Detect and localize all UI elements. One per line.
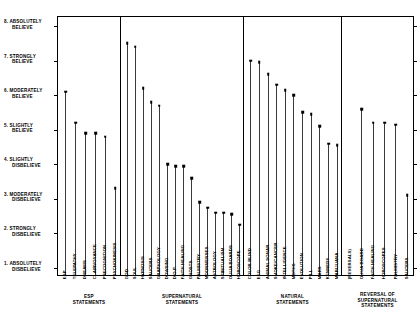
plot-area-natural: COLOR BLINDEEGANIMAL SONARSMOKE/CANCERIN… xyxy=(244,17,341,275)
y-axis-label-1: 1. ABSOLUTELYDISBELIEVE xyxy=(2,261,54,272)
x-axis-label-esp-1: TELEPATHY xyxy=(73,253,77,279)
stem-natural-1 xyxy=(259,62,260,275)
y-axis-tick-4 xyxy=(54,164,58,165)
panel-supernatural-statements: GODSOULHYPNOSISSAUCERSGRAPHOLOGYDOWSINGD… xyxy=(120,16,244,276)
y-axis-tick-3 xyxy=(413,199,417,200)
group-title-line: STATEMENTS xyxy=(120,300,244,306)
x-axis-label-supernatural-9: PALMISTRY xyxy=(197,254,201,279)
stem-supernatural-6 xyxy=(175,166,176,275)
stem-supernatural-2 xyxy=(143,88,144,275)
x-axis-label-reversal-3: HOROSCOPES xyxy=(382,247,386,279)
x-axis-label-natural-9: KENNEDY xyxy=(326,257,330,279)
y-axis-tick-2 xyxy=(54,233,58,234)
data-point-natural-6 xyxy=(301,111,304,114)
group-title-natural: NATURALSTATEMENTS xyxy=(243,294,342,305)
x-axis-label-natural-2: ANIMAL SONAR xyxy=(265,245,269,280)
group-title-line: STATEMENTS xyxy=(341,303,414,309)
x-axis-label-reversal-1: OUIJA BOARD xyxy=(359,248,363,279)
x-axis-label-supernatural-14: HOROSCOPE xyxy=(237,250,241,279)
x-axis-label-esp-2: DREAMS xyxy=(83,260,87,279)
group-title-reversal: REVERSAL OFSUPERNATURALSTATEMENTS xyxy=(341,292,414,309)
data-point-supernatural-9 xyxy=(198,201,201,204)
data-point-natural-9 xyxy=(327,142,330,145)
x-axis-label-natural-6: EVOLUTION xyxy=(300,253,304,279)
y-axis-tick-2 xyxy=(413,233,417,234)
x-axis-label-supernatural-1: SOUL xyxy=(133,267,137,279)
y-axis-label-8: 8. ABSOLUTELYBELIEVE xyxy=(2,19,54,30)
x-axis-label-supernatural-5: DOWSING xyxy=(165,257,169,279)
x-axis-label-natural-4: INTELLIGENCE xyxy=(283,246,287,279)
data-point-natural-4 xyxy=(284,89,287,92)
x-axis-label-supernatural-10: MOONMENSES xyxy=(205,247,209,280)
y-axis-label-3: 3. MODERATELYDISBELIEVE xyxy=(2,192,54,203)
data-point-supernatural-0 xyxy=(126,42,129,45)
x-axis-label-natural-1: EEG xyxy=(257,270,261,279)
x-axis-label-supernatural-0: GOD xyxy=(125,269,129,279)
stem-esp-1 xyxy=(75,123,76,275)
stem-natural-0 xyxy=(250,61,251,275)
x-axis-label-supernatural-4: GRAPHOLOGY xyxy=(157,247,161,279)
y-axis-tick-7 xyxy=(54,61,58,62)
data-point-natural-5 xyxy=(293,94,296,97)
y-axis-label-5: 5. SLIGHTLYBELIEVE xyxy=(2,123,54,134)
x-axis-label-natural-8: MARS xyxy=(317,266,321,279)
y-axis-tick-6 xyxy=(54,95,58,96)
data-point-supernatural-4 xyxy=(158,104,161,107)
data-point-natural-7 xyxy=(310,113,313,116)
x-axis-label-reversal-2: FAITH HEALING xyxy=(371,245,375,280)
data-point-supernatural-6 xyxy=(174,165,177,168)
data-point-supernatural-1 xyxy=(134,45,137,48)
plot-area-reversal: (REVERSALS)OUIJA BOARDFAITH HEALINGHOROS… xyxy=(342,17,413,275)
x-axis-label-supernatural-12: SPIRITUALISM xyxy=(221,248,225,280)
data-point-supernatural-8 xyxy=(190,177,193,180)
stem-supernatural-1 xyxy=(135,47,136,275)
data-point-supernatural-7 xyxy=(182,165,185,168)
y-axis-label-7: 7. STRONGLYBELIEVE xyxy=(2,54,54,65)
panel-esp-statements: ESPTELEPATHYDREAMSCLAIRVOYANCEPRECOGNITI… xyxy=(57,16,121,276)
y-axis-tick-labels: 8. ABSOLUTELYBELIEVE7. STRONGLYBELIEVE6.… xyxy=(2,0,54,319)
data-point-reversal-1 xyxy=(361,108,364,111)
group-title-esp: ESPSTATEMENTS xyxy=(57,294,121,305)
data-point-natural-8 xyxy=(319,125,322,128)
x-axis-label-supernatural-7: FAITH HEALING xyxy=(181,245,185,280)
stem-esp-0 xyxy=(65,92,66,275)
x-axis-label-natural-0: COLOR BLIND xyxy=(248,248,252,279)
data-point-reversal-3 xyxy=(383,121,386,124)
x-axis-label-supernatural-13: OUIJA BOARDS xyxy=(229,245,233,279)
data-point-esp-0 xyxy=(64,90,67,93)
y-axis-tick-8 xyxy=(413,26,417,27)
stem-supernatural-3 xyxy=(151,102,152,275)
y-axis-tick-1 xyxy=(54,268,58,269)
x-axis-label-natural-10: MARIJUANA xyxy=(335,252,339,279)
x-axis-label-natural-3: SMOKE/CANCER xyxy=(274,243,278,280)
y-axis-tick-6 xyxy=(413,95,417,96)
y-axis-label-6: 6. MODERATELYBELIEVE xyxy=(2,89,54,100)
stem-supernatural-0 xyxy=(127,43,128,275)
y-axis-tick-1 xyxy=(413,268,417,269)
data-point-supernatural-14 xyxy=(238,223,241,226)
data-point-esp-2 xyxy=(84,132,87,135)
data-point-supernatural-11 xyxy=(214,211,217,214)
data-point-reversal-5 xyxy=(406,194,409,197)
y-axis-tick-7 xyxy=(413,61,417,62)
data-point-esp-4 xyxy=(104,135,107,138)
data-point-supernatural-2 xyxy=(142,87,145,90)
panel-reversal-statements: (REVERSALS)OUIJA BOARDFAITH HEALINGHOROS… xyxy=(341,16,414,276)
data-point-natural-3 xyxy=(275,83,278,86)
data-point-natural-1 xyxy=(258,61,261,64)
data-point-natural-10 xyxy=(336,144,339,147)
y-axis-label-4: 4. SLIGHTLYDISBELIEVE xyxy=(2,158,54,169)
data-point-natural-2 xyxy=(267,73,270,76)
group-title-line: STATEMENTS xyxy=(57,300,121,306)
x-axis-label-esp-4: PRECOGNITION xyxy=(103,245,107,280)
y-axis-tick-5 xyxy=(54,130,58,131)
data-point-supernatural-3 xyxy=(150,101,153,104)
data-point-reversal-4 xyxy=(395,123,398,126)
y-axis-tick-4 xyxy=(413,164,417,165)
x-axis-label-supernatural-8: GHOSTS xyxy=(189,260,193,279)
stem-natural-6 xyxy=(302,112,303,275)
x-axis-label-natural-5: MOTHS xyxy=(291,263,295,279)
panel-natural-statements: COLOR BLINDEEGANIMAL SONARSMOKE/CANCERIN… xyxy=(243,16,342,276)
stem-natural-7 xyxy=(311,114,312,275)
